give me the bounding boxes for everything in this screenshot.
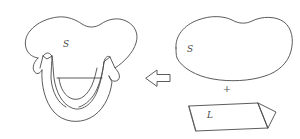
tube-inner-mouth [59, 68, 97, 99]
handle-parallelogram-body [189, 103, 268, 131]
tube-left-peak [43, 56, 52, 59]
plus-sign: + [223, 83, 231, 94]
figure-canvas: S S + L [0, 0, 300, 139]
handle-arrowhead [258, 103, 276, 128]
left-surface-label: S [63, 39, 69, 49]
one-handle-parallelogram-group: L [189, 103, 276, 131]
right-blob-outline [176, 17, 292, 81]
tube-right-spike [79, 62, 104, 107]
handle-left-edge [189, 106, 196, 131]
right-surface-blob-group: S [176, 17, 292, 81]
left-surface-with-handle-group: S [25, 17, 137, 122]
left-arrow-icon [146, 70, 170, 86]
handle-label: L [206, 110, 213, 120]
topology-figure: S S + L [0, 0, 300, 139]
left-blob-outline [25, 17, 137, 68]
right-surface-label: S [187, 44, 193, 54]
